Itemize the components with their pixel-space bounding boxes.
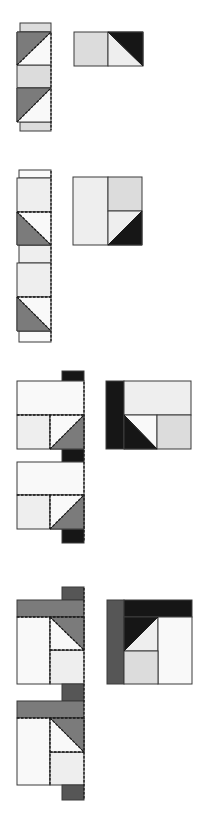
step-2-sewn-strip — [17, 170, 51, 342]
strip-patch-black — [62, 371, 84, 381]
unit-patch-light — [74, 32, 108, 66]
strip-patch-black — [62, 529, 84, 543]
step-1-finished-unit — [74, 32, 143, 66]
strip-patch-mid — [17, 701, 84, 718]
strip-patch-dark — [62, 684, 84, 701]
unit-patch-black — [124, 600, 192, 617]
strip-patch-lighter — [19, 245, 51, 263]
step-1-sewn-strip — [17, 23, 51, 131]
strip-patch-mid — [17, 600, 84, 617]
step-1-group — [17, 23, 143, 131]
unit-patch-lighter — [73, 177, 108, 245]
strip-patch-lighter — [17, 495, 50, 529]
unit-patch-light — [124, 651, 158, 684]
unit-patch-light — [108, 177, 142, 211]
step-2-group — [17, 170, 142, 342]
strip-patch-lighter — [50, 650, 84, 684]
step-2-finished-unit — [73, 177, 142, 245]
step-3-sewn-strip — [17, 371, 84, 543]
strip-patch-dark — [62, 785, 84, 800]
strip-patch-white — [17, 718, 50, 785]
step-3-group — [17, 371, 191, 543]
strip-patch-dark — [62, 587, 84, 600]
step-3-finished-unit — [106, 381, 191, 449]
strip-patch-light — [17, 65, 51, 88]
piecing-diagram — [0, 0, 207, 830]
unit-patch-light — [157, 415, 191, 449]
strip-patch-lighter — [17, 415, 50, 449]
strip-patch-white — [17, 617, 50, 684]
unit-patch-lighter — [124, 381, 191, 415]
strip-patch-white — [17, 462, 84, 495]
step-4-finished-unit — [107, 600, 192, 684]
strip-patch-lighter — [17, 263, 51, 297]
unit-patch-dark — [107, 600, 124, 684]
strip-patch-white — [17, 381, 84, 415]
strip-patch-light — [20, 122, 51, 131]
strip-patch-lighter — [50, 752, 84, 785]
step-4-group — [17, 587, 192, 800]
strip-patch-black — [62, 449, 84, 462]
step-4-sewn-strip — [17, 587, 84, 800]
strip-patch-white — [19, 331, 51, 342]
strip-patch-lighter — [17, 178, 51, 212]
strip-patch-light — [20, 23, 51, 32]
strip-patch-white — [19, 170, 51, 178]
unit-patch-white — [158, 617, 192, 684]
unit-patch-black — [106, 381, 124, 449]
